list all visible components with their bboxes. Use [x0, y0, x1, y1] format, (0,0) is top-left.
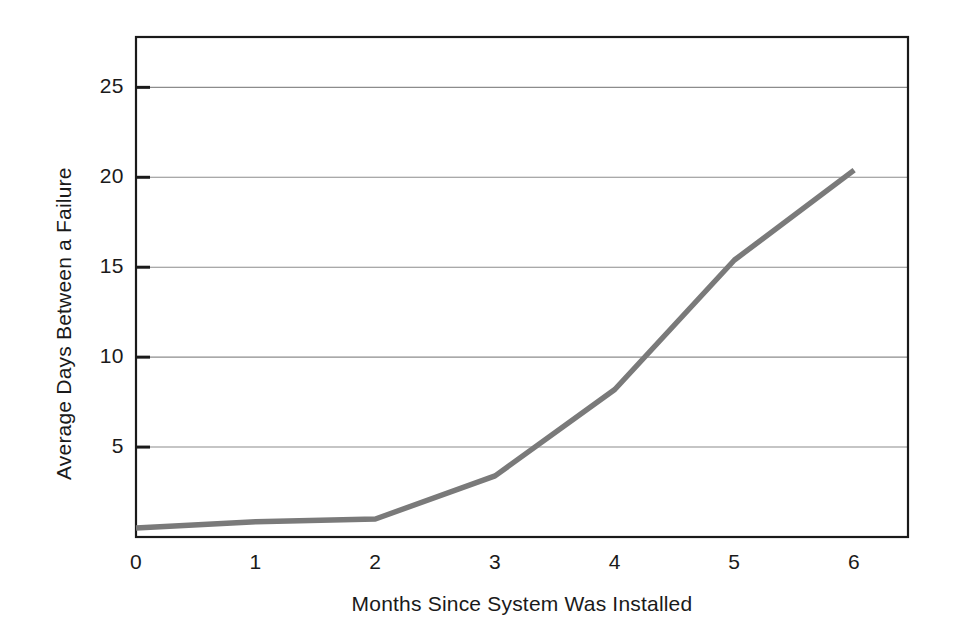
x-tick-label: 6 — [824, 550, 884, 574]
x-axis-title: Months Since System Was Installed — [136, 592, 908, 616]
chart-plot-area — [0, 0, 953, 637]
y-axis-title: Average Days Between a Failure — [52, 167, 76, 480]
plot-background — [136, 37, 908, 537]
x-tick-label: 4 — [585, 550, 645, 574]
y-tick-label: 25 — [64, 74, 124, 98]
x-tick-label: 0 — [106, 550, 166, 574]
x-tick-label: 5 — [704, 550, 764, 574]
x-tick-label: 3 — [465, 550, 525, 574]
x-tick-label: 1 — [226, 550, 286, 574]
chart-container: 510152025 0123456 Months Since System Wa… — [0, 0, 953, 637]
x-tick-label: 2 — [345, 550, 405, 574]
